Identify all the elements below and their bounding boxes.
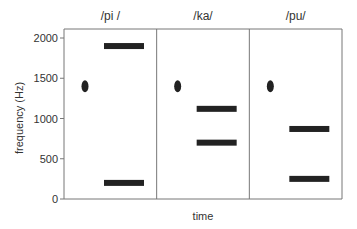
spectrogram-chart: 0500100015002000/pi //ka//pu/ time frequ…: [0, 0, 357, 229]
y-tick-label: 1000: [34, 113, 58, 125]
y-axis-label: frequency (Hz): [13, 82, 25, 154]
burst-mark: [267, 80, 274, 92]
y-tick-label: 2000: [34, 32, 58, 44]
formant-bar: [104, 43, 144, 49]
y-tick-label: 1500: [34, 72, 58, 84]
marks: [82, 43, 330, 186]
y-tick-label: 500: [40, 153, 58, 165]
panel-title: /pi /: [101, 9, 121, 23]
formant-bar: [197, 140, 237, 146]
burst-mark: [174, 80, 181, 92]
axes: 0500100015002000/pi //ka//pu/: [34, 9, 342, 205]
formant-bar: [289, 126, 329, 132]
y-tick-label: 0: [52, 193, 58, 205]
formant-bar: [289, 176, 329, 182]
x-axis-label: time: [193, 210, 214, 222]
formant-bar: [104, 180, 144, 186]
burst-mark: [82, 80, 89, 92]
panel-title: /pu/: [286, 9, 307, 23]
panel-title: /ka/: [193, 9, 213, 23]
formant-bar: [197, 106, 237, 112]
